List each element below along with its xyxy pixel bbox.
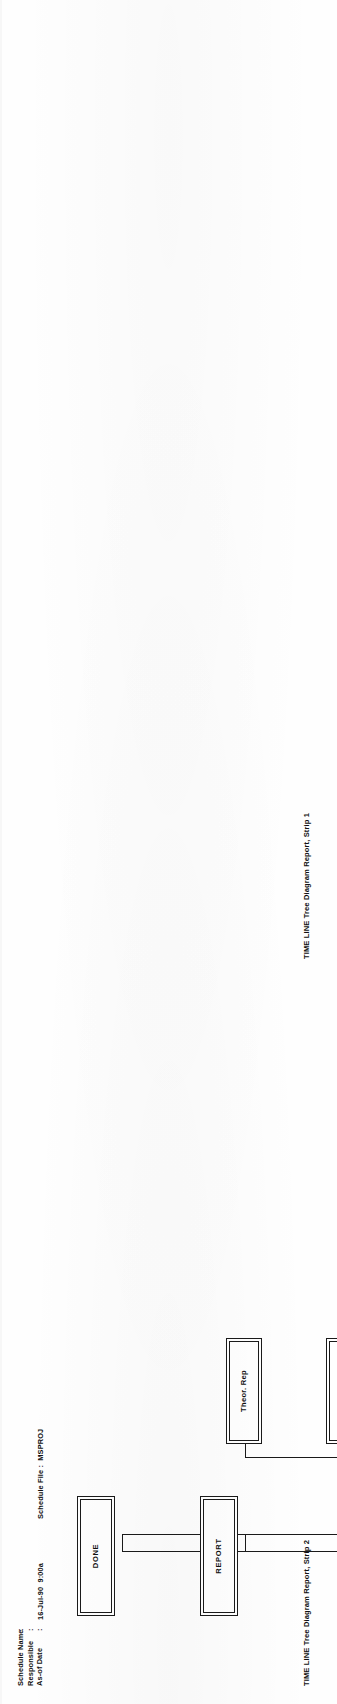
header-labels: Schedule Name Responsible As-of Date xyxy=(16,1629,45,1686)
node-report-label: REPORT xyxy=(215,1538,223,1573)
header-asof-date-value: 16-Jul-90 9:00a xyxy=(36,1563,46,1620)
node-done[interactable]: DONE xyxy=(77,1496,115,1616)
node-theor-rep[interactable]: Theor. Rep xyxy=(226,1338,262,1444)
header-colons: : : : xyxy=(16,1628,45,1631)
node-theor-rep-label: Theor. Rep xyxy=(240,1370,248,1412)
rotated-report-canvas: Schedule Name Responsible As-of Date : :… xyxy=(0,0,337,1704)
footer-strip-2: TIME LINE Tree Diagram Report, Strip 2 xyxy=(302,1540,311,1686)
connector-done-h xyxy=(122,1534,123,1552)
node-theor-stu[interactable]: Theor. Stu xyxy=(326,1338,337,1444)
node-done-label: DONE xyxy=(92,1544,100,1568)
node-report[interactable]: REPORT xyxy=(200,1496,238,1616)
connector-report-h xyxy=(245,1534,246,1552)
report-plate: Schedule Name Responsible As-of Date : :… xyxy=(0,0,337,1704)
scanned-page: Schedule Name Responsible As-of Date : :… xyxy=(0,0,337,1704)
footer-strip-1: TIME LINE Tree Diagram Report, Strip 1 xyxy=(302,813,311,959)
connector-theor-rep xyxy=(245,1444,246,1458)
connector-theory-children-v xyxy=(245,1457,337,1458)
header-schedule-file: Schedule File : MSPROJ xyxy=(36,1429,46,1519)
